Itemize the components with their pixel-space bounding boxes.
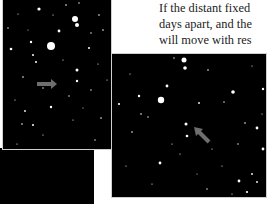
arrow-right-icon: [37, 79, 57, 89]
text-line-3: will move with res: [159, 32, 270, 48]
image-backdrop: [0, 148, 94, 204]
star-field-right: [112, 54, 267, 198]
star-field-image-left: [2, 0, 112, 150]
star-field-left: [3, 0, 112, 150]
star-field-image-right: [111, 53, 267, 198]
text-line-2: days apart, and the: [159, 16, 270, 32]
arrow-up-left-icon: [194, 127, 209, 142]
body-text: If the distant fixed days apart, and the…: [159, 0, 270, 48]
text-line-1: If the distant fixed: [159, 0, 270, 16]
